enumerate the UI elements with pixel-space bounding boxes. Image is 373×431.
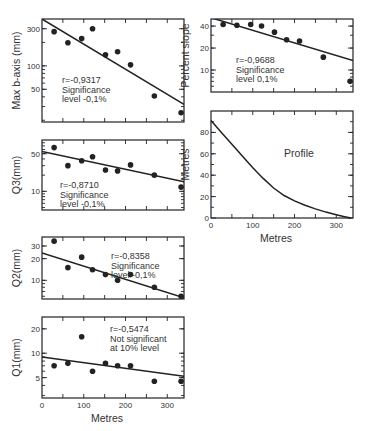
data-point <box>115 168 121 174</box>
axes-frame <box>211 111 353 218</box>
correlation-annotation: level -0,1% <box>111 270 156 280</box>
data-point <box>79 36 85 42</box>
data-point <box>103 167 109 173</box>
data-point <box>152 379 158 385</box>
correlation-annotation: r=-0,9317 <box>62 75 101 85</box>
data-point <box>79 334 85 340</box>
data-point <box>103 272 109 278</box>
chart-slope: 102040Percent sloper=-0,9688Significance… <box>179 18 353 92</box>
data-point <box>347 79 353 85</box>
y-axis-label: Percent slope <box>179 23 191 87</box>
data-point <box>297 38 303 44</box>
y-tick-label: 50 <box>31 85 40 94</box>
correlation-annotation: level 0,1% <box>236 74 278 84</box>
chart-profile: 020406080Metres0100200300MetresProfile <box>179 111 353 244</box>
correlation-annotation: r=-0,8710 <box>60 180 99 190</box>
data-point <box>128 62 134 68</box>
y-axis-label: Metres <box>179 148 191 180</box>
data-point <box>284 37 290 43</box>
chart-maxb: 50100300Max b-axis (mm)r=-0,9317Signific… <box>10 19 184 122</box>
correlation-annotation: Significance <box>62 85 111 95</box>
correlation-annotation: Significance <box>111 261 160 271</box>
data-point <box>248 22 254 28</box>
data-point <box>103 361 109 367</box>
chart-q1: 51020Q1(mm)0100200300Metresr=-0,5474Not … <box>10 317 184 424</box>
data-point <box>128 363 134 369</box>
x-axis-label: Metres <box>91 412 123 424</box>
x-tick-label: 300 <box>161 401 175 410</box>
correlation-annotation: r=-0,5474 <box>110 324 149 334</box>
chart-q3: 1050Q3(mm)r=-0,8710Significancelevel -0,… <box>10 140 184 210</box>
data-point <box>103 52 109 58</box>
y-axis-label: Q1(mm) <box>10 338 22 377</box>
y-tick-label: 20 <box>31 325 40 334</box>
data-point <box>234 22 240 28</box>
y-tick-label: 80 <box>200 128 209 137</box>
y-tick-label: 300 <box>27 25 41 34</box>
data-point <box>220 22 226 28</box>
data-point <box>152 93 158 99</box>
x-tick-label: 200 <box>288 221 302 230</box>
data-point <box>65 163 71 169</box>
correlation-annotation: Not significant <box>110 334 167 344</box>
y-tick-label: 20 <box>200 44 209 53</box>
axes-frame <box>42 19 184 122</box>
data-point <box>178 293 184 299</box>
y-tick-label: 60 <box>200 150 209 159</box>
data-point <box>79 158 85 164</box>
data-point <box>321 54 327 60</box>
y-tick-label: 10 <box>31 187 40 196</box>
x-axis-label: Metres <box>260 232 292 244</box>
y-tick-label: 50 <box>31 150 40 159</box>
data-point <box>51 145 57 151</box>
y-tick-label: 100 <box>27 62 41 71</box>
x-tick-label: 0 <box>209 221 214 230</box>
y-axis-label: Q2(mm) <box>10 249 22 288</box>
data-point <box>65 40 71 46</box>
data-point <box>79 254 85 260</box>
correlation-annotation: Significance <box>60 190 109 200</box>
regression-line <box>42 357 184 376</box>
y-tick-label: 20 <box>200 193 209 202</box>
x-tick-label: 100 <box>246 221 260 230</box>
figure-canvas: 50100300Max b-axis (mm)r=-0,9317Signific… <box>0 0 373 431</box>
chart-q2: 102030Q2(mm)r=-0,8358Significancelevel -… <box>10 237 184 299</box>
correlation-annotation: r=-0,8358 <box>111 251 150 261</box>
data-point <box>115 363 121 369</box>
data-point <box>90 26 96 32</box>
y-tick-label: 20 <box>31 255 40 264</box>
data-point <box>272 29 278 35</box>
data-point <box>51 238 57 244</box>
x-tick-label: 0 <box>40 401 45 410</box>
data-point <box>128 162 134 168</box>
data-point <box>152 284 158 290</box>
correlation-annotation: level -0,1% <box>60 199 105 209</box>
profile-curve <box>211 121 351 218</box>
data-point <box>65 265 71 271</box>
data-point <box>90 267 96 273</box>
x-tick-label: 100 <box>77 401 91 410</box>
y-tick-label: 10 <box>31 276 40 285</box>
y-tick-label: 10 <box>31 349 40 358</box>
chart-title: Profile <box>284 147 314 159</box>
data-point <box>65 361 71 367</box>
data-point <box>90 154 96 160</box>
data-point <box>51 29 57 35</box>
data-point <box>178 379 184 385</box>
data-point <box>115 49 121 55</box>
correlation-annotation: at 10% level <box>110 343 159 353</box>
data-point <box>178 110 184 116</box>
x-tick-label: 200 <box>119 401 133 410</box>
y-tick-label: 40 <box>200 22 209 31</box>
y-tick-label: 30 <box>31 242 40 251</box>
correlation-annotation: level -0,1% <box>62 94 107 104</box>
data-point <box>90 368 96 374</box>
y-tick-label: 10 <box>200 66 209 75</box>
y-tick-label: 5 <box>36 374 41 383</box>
y-axis-label: Max b-axis (mm) <box>10 31 22 109</box>
axes-frame <box>211 19 353 92</box>
correlation-annotation: r=-0,9688 <box>236 55 275 65</box>
data-point <box>51 363 57 369</box>
regression-line <box>42 152 184 182</box>
x-tick-label: 300 <box>330 221 344 230</box>
